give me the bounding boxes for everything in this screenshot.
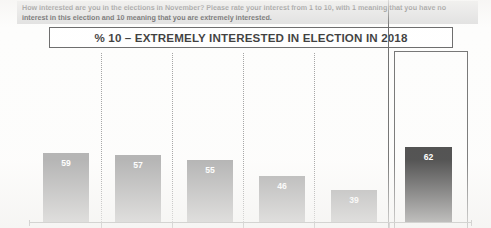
bar-value-label-1: 59 [43, 158, 89, 168]
bar-5: 39 [331, 190, 377, 222]
bar-3: 55 [187, 160, 233, 222]
column-separator-1 [101, 53, 102, 228]
x-axis-tick-5 [389, 222, 390, 228]
question-line-2: interest in this election and 10 meaning… [22, 13, 473, 23]
x-axis-tick-1 [101, 222, 102, 228]
bar-value-label-3: 55 [187, 165, 233, 175]
screenshot-root: How interested are you in the elections … [0, 0, 491, 228]
x-axis-left-cap [29, 220, 30, 226]
column-separator-2 [172, 53, 173, 228]
bar-value-label-4: 46 [259, 181, 305, 191]
column-separator-4 [314, 53, 315, 228]
x-axis-tick-4 [314, 222, 315, 228]
column-separator-3 [243, 53, 244, 228]
x-axis-right-cap [471, 220, 472, 226]
chart-title: % 10 – EXTREMELY INTERESTED IN ELECTION … [94, 31, 407, 44]
survey-question-banner: How interested are you in the elections … [17, 1, 478, 24]
question-line-1: How interested are you in the elections … [22, 3, 473, 13]
x-axis-tick-3 [243, 222, 244, 228]
bar-value-label-5: 39 [331, 195, 377, 205]
chart-title-box: % 10 – EXTREMELY INTERESTED IN ELECTION … [49, 27, 453, 48]
bar-4: 46 [259, 176, 305, 222]
bar-chart-plot-area: 595755463962 [0, 48, 491, 228]
bar-2: 57 [115, 155, 161, 222]
highlight-divider-line [388, 0, 389, 228]
x-axis-tick-2 [172, 222, 173, 228]
highlight-column-frame [394, 51, 468, 228]
x-axis-line [29, 222, 472, 223]
bar-value-label-2: 57 [115, 160, 161, 170]
bar-1: 59 [43, 153, 89, 222]
